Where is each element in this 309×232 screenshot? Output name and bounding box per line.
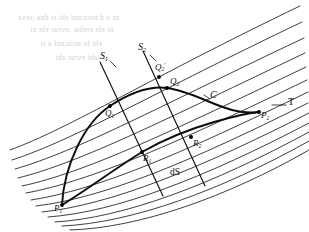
label-s2: S2 — [138, 41, 146, 53]
label-p1: P1 — [54, 203, 62, 214]
label-q2-prime: Q2' — [155, 61, 166, 72]
label-r1: R1 — [143, 153, 151, 164]
label-tangent-t: T — [288, 96, 294, 107]
upper-extremal-arc-c — [62, 88, 259, 205]
leader-s1 — [110, 61, 116, 67]
label-s1: S1 — [100, 50, 108, 62]
label-r2: R2 — [193, 138, 201, 149]
family-curve-11 — [55, 132, 309, 222]
label-curve-c: C — [210, 89, 217, 100]
family-curve-5 — [22, 67, 306, 186]
point-q2 — [165, 86, 169, 90]
transversals — [100, 51, 205, 196]
point-q2-prime — [157, 75, 161, 79]
family-curve-2 — [12, 22, 302, 160]
label-arc-ds: dS — [170, 167, 180, 177]
transversal-s2 — [143, 51, 205, 186]
extremal-arcs — [62, 88, 259, 205]
transversal-s1 — [100, 62, 163, 196]
family-curve-3 — [15, 38, 304, 169]
family-curve-12 — [62, 141, 309, 226]
label-p2: P2 — [261, 110, 269, 121]
label-q1: Q1 — [105, 108, 114, 119]
diagram-canvas: ni o d noitcnuf eht si dna ,sexa ni eht … — [0, 0, 309, 232]
family-curve-6 — [26, 80, 307, 193]
label-q2: Q2 — [170, 76, 179, 87]
